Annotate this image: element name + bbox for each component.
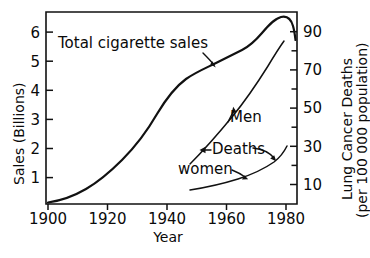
annotation-deaths: Deaths [212,142,265,157]
x-tick-label-1980: 1980 [256,212,316,227]
right-axis-ticks [290,32,297,185]
x-tick-label-1920: 1920 [78,212,138,227]
x-axis-title: Year [108,230,228,245]
left-axis-ticks [46,32,53,178]
y2-tick-label-30: 30 [303,140,333,155]
x-tick-label-1960: 1960 [197,212,257,227]
y2-tick-label-10: 10 [303,178,333,193]
annotation-total-cigarette-sales: Total cigarette sales [58,36,208,51]
annotation-women: women [178,162,233,177]
y2-tick-label-70: 70 [303,63,333,78]
y-tick-label-5: 5 [16,55,40,70]
y2-tick-label-90: 90 [303,25,333,40]
y2-axis-title-line1: Lung Cancer Deaths [340,58,355,200]
x-tick-label-1940: 1940 [137,212,197,227]
y2-tick-label-50: 50 [303,101,333,116]
y-axis-title: Sales (Billions) [12,82,27,185]
x-tick-label-1900: 1900 [18,212,78,227]
annotation-men: Men [230,110,262,125]
y2-axis-title-line2: (per 100 000 population) [355,43,370,218]
y-tick-label-6: 6 [16,26,40,41]
